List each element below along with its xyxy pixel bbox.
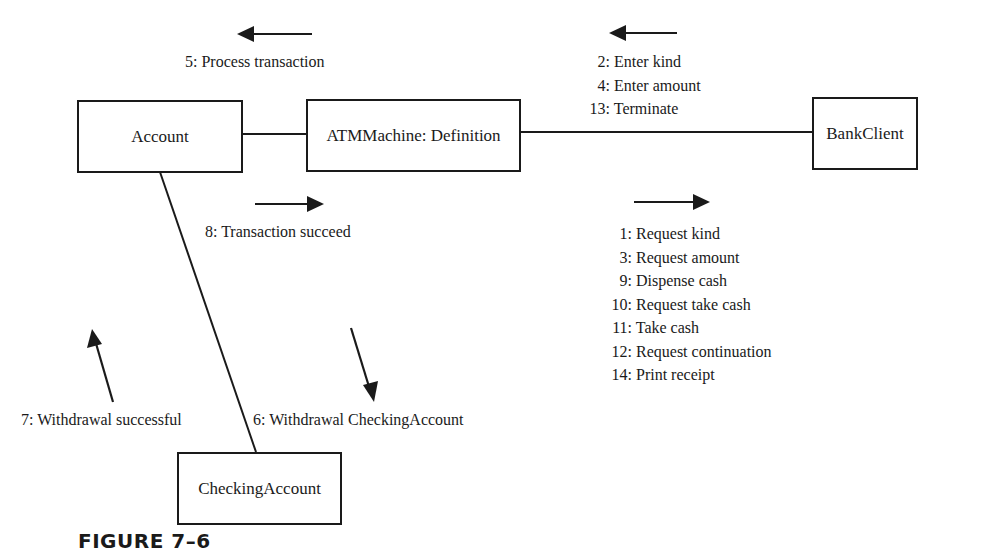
message-item: 10: Request take cash <box>606 293 772 317</box>
message-item: 2: Enter kind <box>584 50 701 74</box>
message-item: 4: Enter amount <box>584 74 701 98</box>
message-item: 3: Request amount <box>606 246 772 270</box>
figure-caption: FIGURE 7–6 <box>78 529 211 553</box>
object-atm-machine: ATMMachine: Definition <box>306 99 521 172</box>
message-item: 1: Request kind <box>606 222 772 246</box>
arrow-down-withdrawal-checking-icon <box>351 328 378 402</box>
object-bank-client-label: BankClient <box>826 124 903 144</box>
arrow-right-request-kind-icon <box>634 194 710 210</box>
object-checking-account: CheckingAccount <box>177 452 342 525</box>
object-checking-account-label: CheckingAccount <box>198 479 321 499</box>
message-withdrawal-successful: 7: Withdrawal successful <box>21 408 182 432</box>
message-item: 11: Take cash <box>606 316 772 340</box>
messages-atm-to-client: 1: Request kind 3: Request amount 9: Dis… <box>606 222 772 387</box>
object-account-label: Account <box>131 127 189 147</box>
arrow-left-enter-kind-icon <box>609 25 677 41</box>
message-process-transaction: 5: Process transaction <box>185 50 325 74</box>
message-transaction-succeed: 8: Transaction succeed <box>205 220 351 244</box>
message-withdrawal-checking-account: 6: Withdrawal CheckingAccount <box>253 408 464 432</box>
message-item: 14: Print receipt <box>606 363 772 387</box>
diagram-connectors <box>0 0 984 557</box>
message-item: 13: Terminate <box>584 97 701 121</box>
arrow-up-withdrawal-successful-icon <box>87 329 113 402</box>
object-bank-client: BankClient <box>812 97 918 170</box>
message-item: 12: Request continuation <box>606 340 772 364</box>
messages-client-to-atm: 2: Enter kind 4: Enter amount 13: Termin… <box>584 50 701 121</box>
object-account: Account <box>77 100 243 173</box>
object-atm-label: ATMMachine: Definition <box>326 126 500 146</box>
arrow-right-transaction-succeed-icon <box>255 196 324 212</box>
arrow-left-process-transaction-icon <box>237 26 312 42</box>
message-item: 9: Dispense cash <box>606 269 772 293</box>
